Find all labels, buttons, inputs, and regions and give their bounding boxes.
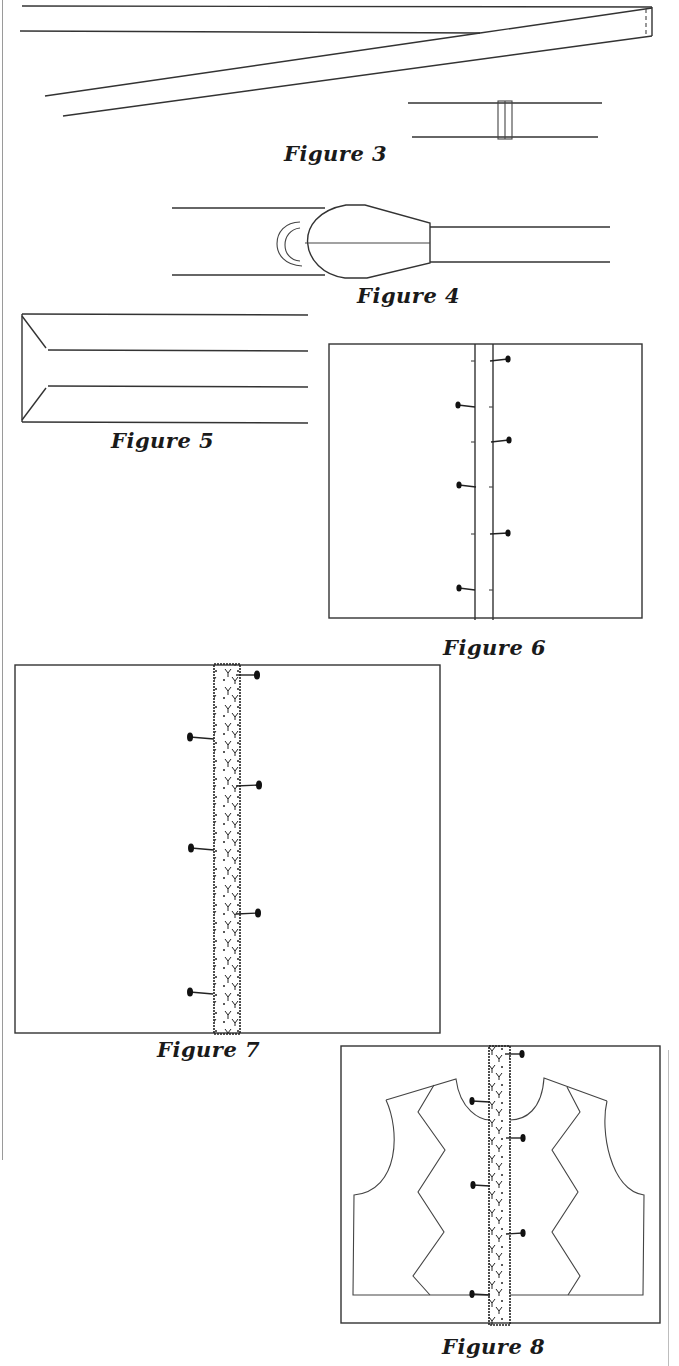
figure-5-caption: Figure 5 [111,428,214,453]
figure-8-caption: Figure 8 [442,1334,545,1359]
figure-3-diagram [20,6,652,139]
figure-7-caption: Figure 7 [157,1037,260,1062]
figure-6-caption: Figure 6 [443,635,546,660]
illustration-canvas [0,0,679,1366]
figure-7-diagram [15,664,440,1034]
figure-8-diagram [341,1046,660,1325]
figure-4-caption: Figure 4 [357,283,460,308]
figure-5-diagram [22,314,308,423]
figure-3-caption: Figure 3 [284,141,387,166]
figure-6-diagram [329,344,642,620]
figure-4-diagram [172,205,610,278]
